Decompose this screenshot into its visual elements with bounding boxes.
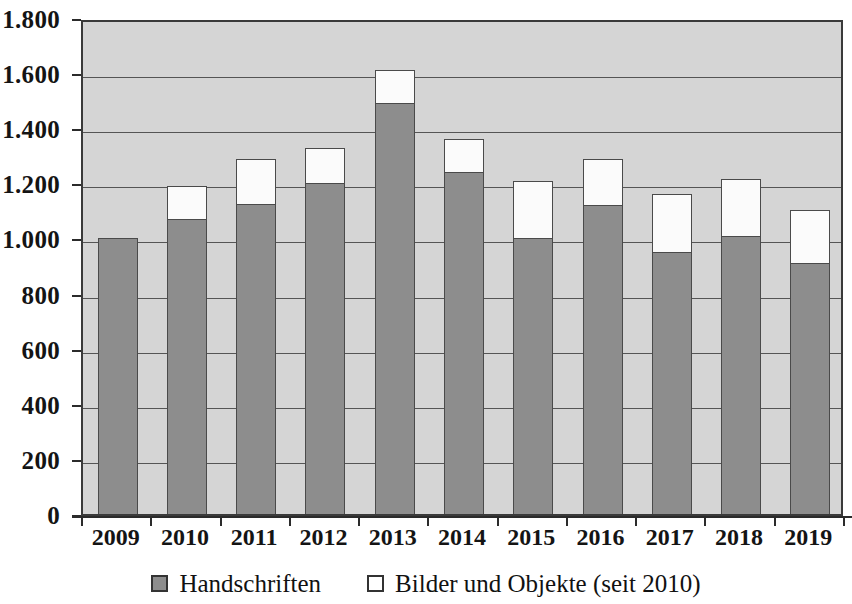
bar-segment-bilder-und-objekte [167, 186, 207, 219]
x-axis-tick-mark [843, 516, 845, 526]
x-axis-tick-label: 2010 [161, 524, 209, 551]
bar-stack [236, 159, 276, 514]
y-axis-tick-mark [72, 405, 81, 407]
y-axis-tick-mark [72, 239, 81, 241]
bar-stack [652, 194, 692, 514]
bar-segment-bilder-und-objekte [513, 181, 553, 239]
x-axis: 2009201020112012201320142015201620172018… [0, 524, 852, 562]
x-axis-tick-label: 2018 [715, 524, 763, 551]
bar-segment-handschriften [305, 183, 345, 514]
legend-swatch-gray-icon [151, 575, 168, 592]
bar-group [790, 22, 830, 514]
y-axis-tick-mark [72, 350, 81, 352]
x-axis-tick-mark [635, 516, 637, 526]
plot-area [81, 20, 843, 516]
bar-group [652, 22, 692, 514]
bar-group [167, 22, 207, 514]
bar-segment-bilder-und-objekte [790, 210, 830, 264]
x-axis-tick-label: 2014 [438, 524, 486, 551]
x-axis-tick-mark [81, 516, 83, 526]
bar-group [583, 22, 623, 514]
bar-segment-handschriften [167, 219, 207, 514]
y-axis-tick-mark [72, 129, 81, 131]
y-axis-tick-label: 200 [22, 447, 60, 475]
bar-segment-bilder-und-objekte [652, 194, 692, 252]
legend-label: Bilder und Objekte (seit 2010) [395, 570, 701, 598]
x-axis-tick-label: 2012 [299, 524, 347, 551]
bar-segment-handschriften [790, 263, 830, 514]
x-axis-tick-mark [358, 516, 360, 526]
bars-layer [83, 22, 841, 514]
stacked-bar-chart: 02004006008001.0001.2001.4001.6001.800 2… [0, 0, 852, 604]
x-axis-tick-label: 2013 [369, 524, 417, 551]
bar-segment-bilder-und-objekte [444, 139, 484, 172]
x-axis-tick-label: 2009 [92, 524, 140, 551]
y-axis-tick-mark [72, 515, 81, 517]
y-axis-tick-label: 1.200 [2, 171, 60, 199]
bar-group [444, 22, 484, 514]
bar-stack [444, 139, 484, 514]
bar-stack [513, 181, 553, 514]
x-axis-tick-label: 2019 [784, 524, 832, 551]
bar-segment-handschriften [98, 238, 138, 514]
bar-segment-bilder-und-objekte [236, 159, 276, 204]
y-axis-tick-mark [72, 74, 81, 76]
bar-segment-bilder-und-objekte [375, 70, 415, 103]
bar-segment-handschriften [652, 252, 692, 514]
chart-legend: HandschriftenBilder und Objekte (seit 20… [0, 563, 852, 604]
y-axis-tick-mark [72, 460, 81, 462]
y-axis-tick-label: 1.400 [2, 116, 60, 144]
x-axis-tick-label: 2011 [231, 524, 278, 551]
x-axis-line [72, 516, 852, 518]
x-axis-tick-mark [704, 516, 706, 526]
bar-segment-handschriften [513, 238, 553, 514]
x-axis-tick-mark [220, 516, 222, 526]
y-axis-tick-label: 1.600 [2, 61, 60, 89]
x-axis-tick-mark [774, 516, 776, 526]
x-axis-tick-label: 2016 [577, 524, 625, 551]
bar-group [98, 22, 138, 514]
bar-segment-handschriften [236, 204, 276, 514]
bar-stack [375, 70, 415, 514]
x-axis-tick-label: 2017 [646, 524, 694, 551]
bar-stack [790, 210, 830, 514]
y-axis: 02004006008001.0001.2001.4001.6001.800 [0, 0, 72, 540]
bar-group [375, 22, 415, 514]
y-axis-tick-label: 1.000 [2, 226, 60, 254]
bar-segment-bilder-und-objekte [721, 179, 761, 235]
y-axis-tick-mark [72, 19, 81, 21]
bar-group [513, 22, 553, 514]
bar-group [305, 22, 345, 514]
legend-label: Handschriften [179, 570, 321, 598]
y-axis-tick-mark [72, 184, 81, 186]
x-axis-tick-mark [566, 516, 568, 526]
bar-segment-handschriften [721, 236, 761, 514]
bar-stack [167, 186, 207, 514]
x-axis-tick-mark [150, 516, 152, 526]
bar-stack [98, 238, 138, 514]
bar-segment-bilder-und-objekte [305, 148, 345, 184]
y-axis-tick-label: 400 [22, 392, 60, 420]
x-axis-tick-mark [497, 516, 499, 526]
bar-segment-handschriften [583, 205, 623, 514]
x-axis-tick-mark [289, 516, 291, 526]
x-axis-tick-mark [427, 516, 429, 526]
legend-item: Handschriften [151, 570, 321, 598]
y-axis-tick-label: 1.800 [2, 6, 60, 34]
legend-item: Bilder und Objekte (seit 2010) [367, 570, 701, 598]
legend-swatch-white-icon [367, 575, 384, 592]
x-axis-tick-label: 2015 [507, 524, 555, 551]
bar-stack [721, 179, 761, 514]
bar-segment-handschriften [375, 103, 415, 514]
bar-group [721, 22, 761, 514]
y-axis-tick-mark [72, 295, 81, 297]
y-axis-tick-label: 800 [22, 282, 60, 310]
bar-group [236, 22, 276, 514]
bar-stack [583, 159, 623, 514]
bar-segment-bilder-und-objekte [583, 159, 623, 206]
bar-stack [305, 148, 345, 514]
y-axis-tick-label: 600 [22, 337, 60, 365]
bar-segment-handschriften [444, 172, 484, 514]
